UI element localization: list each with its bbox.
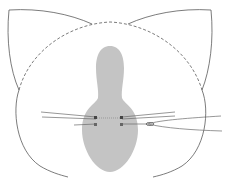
left-anchor-bottom <box>94 123 97 126</box>
left-anchor-top <box>94 116 97 119</box>
cat-face-diagram <box>0 0 232 183</box>
right-anchor-bottom <box>120 123 123 126</box>
head-outline-right <box>153 90 206 177</box>
nose-shape <box>82 46 138 172</box>
right-anchor-top <box>120 116 123 119</box>
head-outline-left <box>16 90 68 177</box>
right-ear <box>128 10 212 90</box>
diagram-svg <box>0 0 232 183</box>
left-ear <box>8 10 92 90</box>
